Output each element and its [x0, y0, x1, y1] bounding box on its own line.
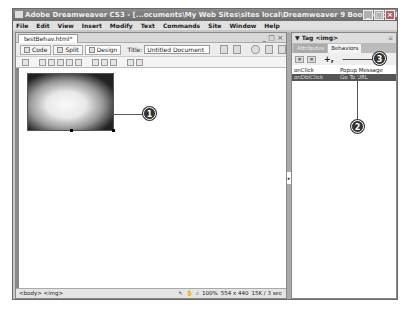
- close-button[interactable]: ×: [385, 10, 395, 20]
- tag-inspector-panel: ▼ Tag <img> ≡ Attributes Behaviors ≡ ≡ +…: [291, 32, 397, 299]
- action-name: Go To URL: [340, 74, 368, 81]
- add-behavior-button[interactable]: +,: [324, 55, 334, 64]
- tag-selector[interactable]: <body> <img>: [19, 290, 63, 296]
- menu-edit[interactable]: Edit: [36, 21, 49, 30]
- show-set-events-icon[interactable]: ≡: [295, 56, 304, 63]
- open-icon[interactable]: [39, 59, 46, 66]
- event-name: onClick: [294, 67, 314, 74]
- document-toolbar: Code Split Design Title: Untitled Docume…: [16, 43, 286, 57]
- save-icon[interactable]: [57, 59, 64, 66]
- behavior-row[interactable]: onClick Popup Message: [292, 67, 396, 74]
- standard-toolbar: [16, 57, 286, 68]
- window-controls: _ □ ×: [363, 10, 395, 20]
- panel-options-icon[interactable]: ≡: [388, 33, 393, 43]
- code-view-button[interactable]: Code: [20, 45, 51, 55]
- copy-icon[interactable]: [101, 59, 108, 66]
- zoom-level-select[interactable]: 100%: [202, 289, 218, 298]
- resize-handle-right[interactable]: [112, 101, 115, 104]
- design-view-button[interactable]: Design: [85, 45, 122, 55]
- file-management-icon[interactable]: [220, 45, 228, 54]
- menu-site[interactable]: Site: [208, 21, 221, 30]
- menu-view[interactable]: View: [58, 21, 74, 30]
- cut-icon[interactable]: [92, 59, 99, 66]
- save-all-icon[interactable]: [66, 59, 73, 66]
- window-title: Adobe Dreamweaver CS3 - [...ocuments\My …: [25, 11, 397, 19]
- view-options-icon[interactable]: [265, 45, 273, 54]
- print-icon[interactable]: [75, 59, 82, 66]
- menu-window[interactable]: Window: [229, 21, 256, 30]
- resize-handle-corner[interactable]: [112, 129, 115, 132]
- design-canvas[interactable]: [16, 68, 286, 290]
- behavior-row-selected[interactable]: onDblClick Go To URL: [292, 74, 396, 81]
- document-tab[interactable]: testBehav.html*: [18, 34, 78, 43]
- select-tool-icon[interactable]: ↖: [178, 289, 183, 298]
- download-size: 15K / 3 sec: [252, 289, 282, 298]
- event-name: onDblClick: [294, 74, 323, 81]
- menu-modify[interactable]: Modify: [110, 21, 133, 30]
- callout-2-line: [357, 76, 358, 120]
- document-title-input[interactable]: Untitled Document: [144, 45, 210, 54]
- split-view-button[interactable]: Split: [53, 45, 82, 55]
- panel-title[interactable]: ▼ Tag <img> ≡: [292, 33, 396, 43]
- undo-icon[interactable]: [127, 59, 134, 66]
- code-icon: [24, 47, 30, 53]
- redo-icon[interactable]: [136, 59, 143, 66]
- design-icon: [89, 47, 95, 53]
- tab-behaviors[interactable]: Behaviors: [328, 44, 361, 53]
- callout-3: 3: [373, 52, 386, 65]
- browse-bridge-icon[interactable]: [48, 59, 55, 66]
- tab-attributes[interactable]: Attributes: [294, 44, 327, 53]
- callout-3-line: [343, 59, 374, 60]
- menu-bar: File Edit View Insert Modify Text Comman…: [13, 21, 397, 30]
- menu-help[interactable]: Help: [264, 21, 279, 30]
- callout-2: 2: [351, 120, 364, 133]
- dreamweaver-window: Adobe Dreamweaver CS3 - [...ocuments\My …: [12, 8, 398, 300]
- menu-insert[interactable]: Insert: [82, 21, 102, 30]
- paste-icon[interactable]: [110, 59, 117, 66]
- kitten-image[interactable]: [27, 73, 114, 131]
- title-bar: Adobe Dreamweaver CS3 - [...ocuments\My …: [13, 9, 397, 21]
- menu-commands[interactable]: Commands: [163, 21, 200, 30]
- zoom-tool-icon[interactable]: ⌕: [196, 289, 199, 298]
- refresh-icon[interactable]: [251, 45, 259, 54]
- document-window-controls[interactable]: _ □ ×: [263, 33, 283, 43]
- title-label: Title:: [127, 46, 142, 53]
- document-window: testBehav.html* _ □ × Code Split Design …: [15, 32, 287, 299]
- split-icon: [57, 47, 63, 53]
- menu-file[interactable]: File: [16, 21, 28, 30]
- preview-browser-icon[interactable]: [233, 45, 241, 54]
- menu-text[interactable]: Text: [141, 21, 155, 30]
- action-name: Popup Message: [340, 67, 383, 74]
- status-bar: <body> <img> ↖ ✋ ⌕ 100% 554 x 440 15K / …: [16, 288, 286, 298]
- hand-tool-icon[interactable]: ✋: [186, 289, 193, 298]
- callout-1: 1: [143, 107, 156, 120]
- show-all-events-icon[interactable]: ≡: [307, 56, 316, 63]
- resize-handle-bottom[interactable]: [70, 129, 73, 132]
- visual-aids-icon[interactable]: [278, 45, 286, 54]
- document-tab-bar: testBehav.html* _ □ ×: [16, 33, 286, 43]
- minimize-button[interactable]: _: [363, 10, 373, 20]
- new-icon[interactable]: [22, 59, 29, 66]
- callout-1-line: [110, 114, 144, 115]
- maximize-button[interactable]: □: [374, 10, 384, 20]
- window-size-select[interactable]: 554 x 440: [221, 289, 249, 298]
- app-icon: [15, 11, 23, 18]
